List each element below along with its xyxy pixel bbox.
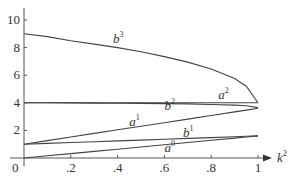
x-tick-label: 1	[255, 160, 262, 175]
y-tick-label: 6	[14, 67, 21, 82]
y-tick-label: 10	[7, 12, 20, 27]
curve-labels: b3a2b2a1b1a0	[113, 30, 229, 155]
axes	[10, 8, 272, 166]
y-tick-label: 8	[14, 40, 21, 55]
x-tick-label: .6	[160, 160, 170, 175]
curve-label-a0: a0	[164, 139, 175, 155]
x-axis-arrow-icon	[263, 155, 272, 162]
curve-label-b2: b2	[164, 97, 175, 113]
x-tick-label: .4	[113, 160, 123, 175]
x-tick-label: .2	[66, 160, 76, 175]
curve-b2	[24, 103, 258, 108]
x-axis-label-sup: 2	[283, 149, 287, 158]
y-tick-label: 2	[14, 122, 21, 137]
x-axis-label: k2	[277, 149, 287, 165]
curve-b1	[24, 136, 258, 144]
curve-label-b1: b1	[183, 124, 194, 140]
y-tick-label: 4	[14, 95, 21, 110]
curve-label-a2: a2	[218, 86, 229, 102]
x-tick-label: .8	[206, 160, 216, 175]
line-chart: 246810 .2.4.6.81 0 k2 b3a2b2a1b1a0	[0, 0, 295, 176]
x-origin-label: 0	[12, 160, 19, 175]
curve-label-b3: b3	[113, 30, 124, 46]
